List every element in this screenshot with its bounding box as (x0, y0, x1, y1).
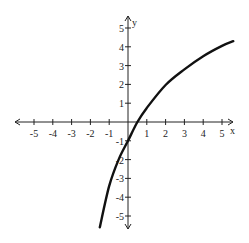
x-tick-label: 5 (220, 128, 225, 139)
function-graph: -5-4-3-2-112345-5-4-3-2-112345 x y (0, 0, 249, 243)
x-tick-label: -2 (86, 128, 94, 139)
x-axis-label: x (230, 125, 235, 136)
x-tick-label: -5 (30, 128, 38, 139)
x-tick-label: -4 (49, 128, 57, 139)
y-tick-label: -1 (116, 136, 124, 147)
x-tick-label: -3 (67, 128, 75, 139)
x-tick-label: 3 (182, 128, 187, 139)
y-tick-label: 2 (119, 79, 124, 90)
x-tick-label: 4 (201, 128, 206, 139)
x-tick-label: 2 (163, 128, 168, 139)
y-tick-label: 1 (119, 98, 124, 109)
x-tick-label: -1 (105, 128, 113, 139)
axes (15, 16, 233, 229)
y-tick-label: 3 (119, 61, 124, 72)
y-axis-label: y (132, 17, 137, 28)
y-tick-label: -4 (116, 192, 124, 203)
y-tick-label: 4 (119, 42, 124, 53)
y-tick-label: -5 (116, 211, 124, 222)
x-tick-label: 1 (144, 128, 149, 139)
y-tick-label: 5 (119, 23, 124, 34)
y-tick-label: -3 (116, 173, 124, 184)
